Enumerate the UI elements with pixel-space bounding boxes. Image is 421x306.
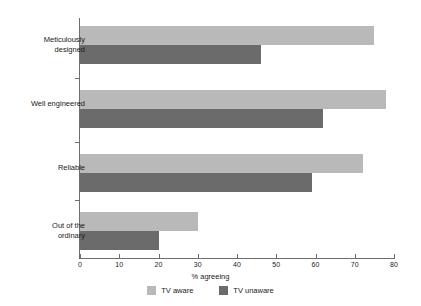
chart-legend: TV awareTV unaware	[0, 286, 421, 295]
x-tick-label-10: 10	[115, 261, 123, 268]
bar-tv-unaware	[80, 45, 261, 64]
bar-tv-aware	[80, 26, 374, 45]
bar-tv-unaware	[80, 109, 323, 128]
category-label: Out of the ordinary	[13, 221, 85, 240]
bar-tv-aware	[80, 154, 363, 173]
x-tick-80	[394, 254, 395, 259]
plot-area	[80, 22, 394, 258]
legend-label: TV aware	[161, 286, 193, 295]
bar-tv-aware	[80, 90, 386, 109]
bar-tv-unaware	[80, 231, 159, 250]
bar-group	[80, 26, 394, 64]
bar-group	[80, 212, 394, 250]
x-tick-label-40: 40	[233, 261, 241, 268]
legend-item: TV aware	[147, 286, 193, 295]
legend-swatch-icon	[147, 286, 156, 295]
category-label: Reliable	[13, 163, 85, 173]
x-tick-label-60: 60	[312, 261, 320, 268]
legend-label: TV unaware	[233, 286, 273, 295]
legend-item: TV unaware	[219, 286, 273, 295]
legend-swatch-icon	[219, 286, 228, 295]
x-tick-label-50: 50	[272, 261, 280, 268]
x-tick-label-70: 70	[351, 261, 359, 268]
x-tick-label-30: 30	[194, 261, 202, 268]
x-axis-title: % agreeing	[0, 272, 421, 281]
bar-tv-unaware	[80, 173, 312, 192]
x-tick-label-80: 80	[390, 261, 398, 268]
category-label: Well engineered	[13, 99, 85, 109]
bar-group	[80, 90, 394, 128]
bar-chart: 01020304050607080 Meticulously designedW…	[0, 0, 421, 306]
x-tick-label-0: 0	[78, 261, 82, 268]
bar-tv-aware	[80, 212, 198, 231]
bar-group	[80, 154, 394, 192]
x-tick-label-20: 20	[155, 261, 163, 268]
category-label: Meticulously designed	[13, 35, 85, 54]
